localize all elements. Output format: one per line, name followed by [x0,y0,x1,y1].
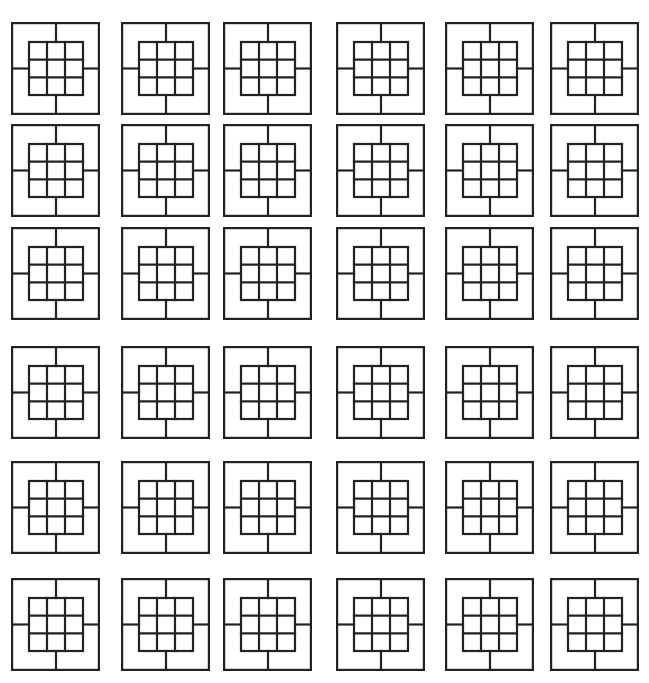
grid-tile [550,124,639,217]
grid-tile [223,22,312,115]
grid-tile [121,227,210,320]
grid-tile [336,22,425,115]
grid-tile [336,346,425,439]
grid-tile [445,461,534,554]
grid-tile [336,124,425,217]
grid-tile [121,578,210,671]
grid-tile [550,227,639,320]
grid-tile [550,578,639,671]
grid-tile [550,22,639,115]
grid-tile [11,124,100,217]
grid-tile [11,22,100,115]
grid-tile [121,461,210,554]
grid-tile [11,346,100,439]
grid-tile [445,346,534,439]
grid-tile [11,461,100,554]
grid-tile [223,227,312,320]
grid-tile [445,227,534,320]
grid-tile [223,124,312,217]
grid-tile [11,227,100,320]
grid-tile [445,124,534,217]
grid-tile [11,578,100,671]
grid-tile [550,346,639,439]
grid-tile [223,346,312,439]
grid-tile [121,22,210,115]
grid-tile [223,578,312,671]
grid-tile [336,578,425,671]
grid-tile [445,578,534,671]
grid-tile [550,461,639,554]
grid-tile [336,227,425,320]
grid-tile [445,22,534,115]
grid-tile [336,461,425,554]
grid-tile [121,346,210,439]
grid-tile [121,124,210,217]
grid-tile [223,461,312,554]
